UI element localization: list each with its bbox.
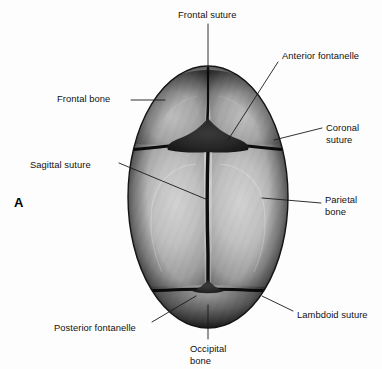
cranial-vault — [127, 66, 289, 328]
label-frontal-suture: Frontal suture — [178, 9, 237, 21]
leader-lambdoid-suture — [262, 296, 293, 311]
label-anterior-fontanelle: Anterior fontanelle — [282, 50, 359, 62]
leader-coronal-suture — [274, 128, 322, 140]
label-occipital-bone: Occipital bone — [190, 343, 226, 366]
panel-letter: A — [14, 195, 23, 210]
label-sagittal-suture: Sagittal suture — [30, 159, 91, 171]
label-posterior-fontanelle: Posterior fontanelle — [54, 322, 136, 334]
label-coronal-suture: Coronal suture — [326, 122, 359, 145]
figure-panel: Frontal suture Anterior fontanelle Front… — [0, 0, 382, 369]
label-lambdoid-suture: Lambdoid suture — [297, 309, 368, 321]
label-frontal-bone: Frontal bone — [57, 93, 110, 105]
label-parietal-bone: Parietal bone — [325, 194, 357, 217]
